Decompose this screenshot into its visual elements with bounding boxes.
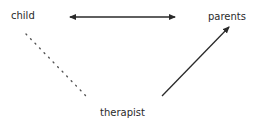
- edge-therapist-parents: [162, 27, 229, 96]
- edge-child-therapist: [26, 34, 87, 97]
- node-child: child: [11, 11, 35, 21]
- node-therapist: therapist: [100, 108, 145, 118]
- node-parents: parents: [208, 12, 246, 22]
